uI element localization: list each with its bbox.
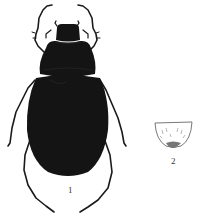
beetle-head bbox=[56, 24, 80, 42]
panel-label-2: 2 bbox=[171, 157, 176, 166]
beetle-illustration bbox=[0, 0, 200, 222]
pygidium-detail bbox=[155, 122, 192, 148]
beetle-pronotum bbox=[40, 41, 96, 77]
panel-label-1: 1 bbox=[68, 186, 73, 195]
left-mandible bbox=[55, 21, 57, 26]
beetle-elytra bbox=[27, 75, 108, 176]
